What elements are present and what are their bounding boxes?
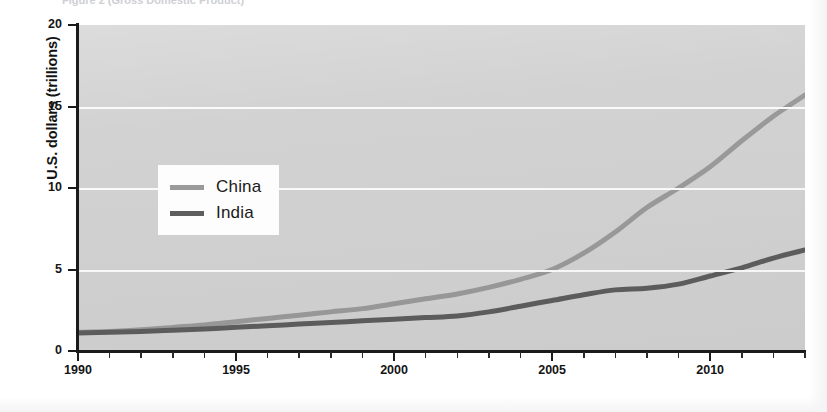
legend-item-china: China <box>170 174 261 200</box>
x-tick-minor-1999 <box>362 352 364 358</box>
y-tick-label-20: 20 <box>0 18 62 30</box>
x-tick-minor-2003 <box>488 352 490 358</box>
x-tick-minor-1997 <box>298 352 300 358</box>
x-tick-minor-1996 <box>267 352 269 358</box>
gridline-5 <box>78 270 805 272</box>
x-tick-label-2010: 2010 <box>680 363 740 377</box>
x-tick-minor-2011 <box>741 352 743 358</box>
x-tick-minor-2009 <box>678 352 680 358</box>
x-tick-major-2005 <box>551 352 553 361</box>
y-tick-15 <box>68 106 77 108</box>
x-tick-minor-2004 <box>520 352 522 358</box>
x-tick-label-1990: 1990 <box>48 363 108 377</box>
x-axis-line <box>76 350 806 353</box>
y-tick-label-10: 10 <box>0 181 62 193</box>
x-tick-label-2005: 2005 <box>522 363 582 377</box>
x-tick-label-1995: 1995 <box>206 363 266 377</box>
y-tick-0 <box>68 350 77 352</box>
x-tick-minor-2002 <box>457 352 459 358</box>
x-tick-label-2000: 2000 <box>364 363 424 377</box>
x-tick-major-2000 <box>393 352 395 361</box>
figure-title-cutoff: Figure 2 (Gross Domestic Product) <box>0 0 827 7</box>
legend-swatch-india <box>170 211 204 216</box>
x-tick-minor-2001 <box>425 352 427 358</box>
x-tick-minor-2008 <box>646 352 648 358</box>
x-tick-minor-1998 <box>330 352 332 358</box>
paper-edge-right <box>809 0 827 412</box>
y-tick-label-5: 5 <box>0 263 62 275</box>
legend-label-china: China <box>216 177 261 197</box>
y-tick-label-0: 0 <box>0 344 62 356</box>
y-tick-10 <box>68 187 77 189</box>
x-tick-minor-1994 <box>204 352 206 358</box>
x-tick-major-1990 <box>77 352 79 361</box>
legend-item-india: India <box>170 200 261 226</box>
x-tick-minor-2006 <box>583 352 585 358</box>
x-tick-minor-2007 <box>615 352 617 358</box>
chart-screenshot: Figure 2 (Gross Domestic Product) U.S. d… <box>0 0 827 412</box>
x-tick-minor-1992 <box>140 352 142 358</box>
legend: China India <box>158 165 279 235</box>
line-series-india <box>78 250 805 333</box>
x-tick-minor-2012 <box>773 352 775 358</box>
gridline-15 <box>78 107 805 109</box>
y-tick-5 <box>68 269 77 271</box>
y-tick-label-15: 15 <box>0 100 62 112</box>
x-tick-minor-1993 <box>172 352 174 358</box>
x-tick-major-2010 <box>709 352 711 361</box>
legend-label-india: India <box>216 203 254 223</box>
legend-swatch-china <box>170 185 204 190</box>
x-tick-minor-2013 <box>804 352 806 358</box>
x-tick-major-1995 <box>235 352 237 361</box>
y-tick-20 <box>68 24 77 26</box>
paper-edge-bottom <box>0 396 827 412</box>
x-tick-minor-1991 <box>109 352 111 358</box>
